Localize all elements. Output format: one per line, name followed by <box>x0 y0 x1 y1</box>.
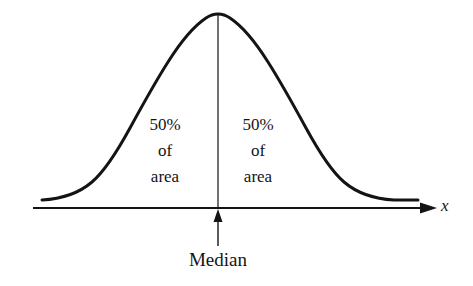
normal-distribution-figure: 50% of area 50% of area Median x <box>0 0 473 286</box>
x-axis-label: x <box>441 196 449 216</box>
right-area-label-percent: 50% <box>218 112 298 138</box>
left-area-label-of: of <box>125 138 205 164</box>
right-area-label-area: area <box>218 164 298 190</box>
median-caption: Median <box>158 248 278 272</box>
median-pointer-arrowhead <box>214 209 223 222</box>
left-area-label-area: area <box>125 164 205 190</box>
left-area-label: 50% of area <box>125 112 205 190</box>
left-area-label-percent: 50% <box>125 112 205 138</box>
right-area-label-of: of <box>218 138 298 164</box>
right-area-label: 50% of area <box>218 112 298 190</box>
x-axis-arrowhead <box>420 203 437 214</box>
